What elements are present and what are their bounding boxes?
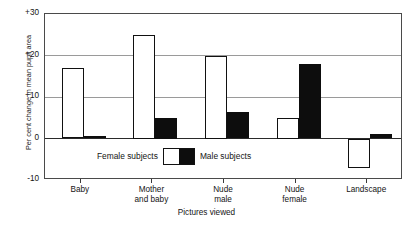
- legend-label-female: Female subjects: [97, 151, 158, 161]
- legend-swatch-female: [164, 149, 179, 164]
- x-axis-title: Pictures viewed: [0, 208, 413, 217]
- y-tick-label: +30: [0, 9, 39, 17]
- legend-swatch-pair: [163, 148, 195, 165]
- bar-female-0: [62, 68, 84, 139]
- bar-female-3: [277, 118, 299, 139]
- bar-male-0: [84, 136, 106, 138]
- x-tick-mark: [223, 179, 224, 183]
- x-tick-label-line: female: [250, 195, 340, 205]
- y-tick-label: +10: [0, 92, 39, 100]
- bar-male-1: [155, 118, 177, 139]
- y-tick-label: +20: [0, 51, 39, 59]
- bar-male-2: [227, 112, 249, 139]
- y-tick-label: -10: [0, 175, 39, 183]
- y-tick-label: 0: [0, 134, 39, 142]
- x-tick-label-line: Landscape: [321, 185, 411, 195]
- bar-male-3: [299, 64, 321, 139]
- x-tick-mark: [80, 179, 81, 183]
- x-tick-label: Landscape: [321, 185, 411, 195]
- legend-swatch-male: [179, 149, 194, 164]
- x-tick-mark: [295, 179, 296, 183]
- bar-male-4: [370, 134, 392, 138]
- chart-figure: Per cent change in mean pupil area +30+2…: [0, 0, 413, 227]
- bar-female-2: [205, 56, 227, 139]
- bar-female-1: [133, 35, 155, 139]
- x-tick-mark: [366, 179, 367, 183]
- x-tick-mark: [151, 179, 152, 183]
- chart-legend: Female subjects Male subjects: [63, 145, 285, 167]
- bar-female-4: [348, 139, 370, 168]
- legend-label-male: Male subjects: [200, 151, 251, 161]
